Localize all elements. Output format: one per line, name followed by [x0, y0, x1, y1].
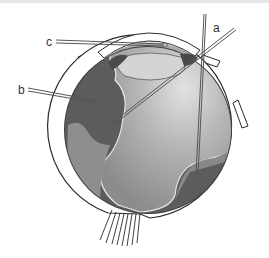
right-lid [233, 100, 248, 128]
label-b: b [18, 83, 25, 97]
lens [117, 53, 186, 80]
label-c: c [46, 35, 52, 49]
eye-diagram: a b c [0, 0, 269, 258]
canal-of-schlemm [163, 43, 167, 47]
optic-nerve [100, 210, 140, 246]
label-a: a [213, 21, 220, 35]
